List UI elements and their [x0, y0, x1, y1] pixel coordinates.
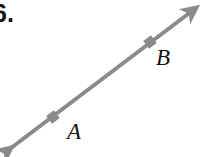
line-diagram [0, 0, 208, 157]
geometry-figure: 6. A B [0, 0, 208, 157]
point-label-a: A [67, 120, 81, 143]
point-label-b: B [156, 46, 170, 69]
line-ab [11, 8, 196, 148]
